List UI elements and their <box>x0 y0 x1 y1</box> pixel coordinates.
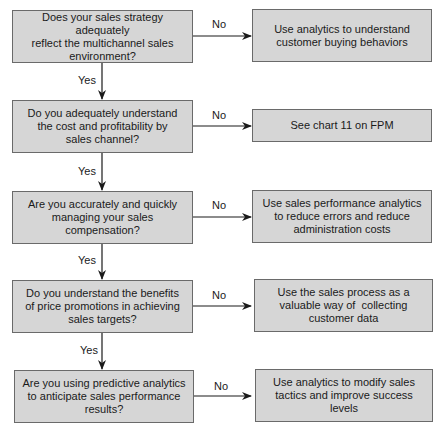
action-3-line-1: Use sales performance analytics <box>263 197 422 210</box>
action-4-line-3: customer data <box>277 312 409 325</box>
question-1-line-3: environment? <box>19 50 186 63</box>
question-5-line-1: Are you using predictive analytics <box>22 377 185 390</box>
question-4-line-2: of price promotions in achieving <box>25 300 180 313</box>
yes-label-4: Yes <box>80 344 98 356</box>
action-1-line-1: Use analytics to understand <box>274 23 410 36</box>
action-1-line-2: customer buying behaviors <box>274 36 410 49</box>
no-label-5: No <box>214 380 228 392</box>
action-5-line-2: tactics and improve success levels <box>262 389 426 415</box>
question-4-line-3: sales targets? <box>25 313 180 326</box>
no-label-4: No <box>212 289 226 301</box>
action-box-4: Use the sales process as a valuable way … <box>254 279 433 332</box>
question-4-line-1: Do you understand the benefits <box>25 287 180 300</box>
question-box-2: Do you adequately understand the cost an… <box>12 100 193 153</box>
yes-label-1: Yes <box>78 74 96 86</box>
action-4-line-2: valuable way of collecting <box>277 299 409 312</box>
question-2-line-1: Do you adequately understand <box>28 107 178 120</box>
question-box-3: Are you accurately and quickly managing … <box>12 191 193 244</box>
no-label-1: No <box>212 18 226 30</box>
question-1-line-2: reflect the multichannel sales <box>19 37 186 50</box>
question-2-line-2: the cost and profitability by <box>28 120 178 133</box>
action-5-line-1: Use analytics to modify sales <box>262 376 426 389</box>
action-2-line-1: See chart 11 on FPM <box>290 119 393 132</box>
action-box-1: Use analytics to understand customer buy… <box>252 9 432 62</box>
action-box-3: Use sales performance analytics to reduc… <box>252 190 432 243</box>
question-5-line-2: to anticipate sales performance <box>22 390 185 403</box>
action-3-line-2: to reduce errors and reduce <box>263 210 422 223</box>
question-box-1: Does your sales strategy adequately refl… <box>12 10 193 63</box>
action-box-2: See chart 11 on FPM <box>252 109 432 142</box>
action-4-line-1: Use the sales process as a <box>277 286 409 299</box>
question-2-line-3: sales channel? <box>28 133 178 146</box>
action-3-line-3: administration costs <box>263 223 422 236</box>
question-1-line-1: Does your sales strategy adequately <box>19 11 186 37</box>
question-3-line-3: compensation? <box>28 224 177 237</box>
question-3-line-2: managing your sales <box>28 211 177 224</box>
question-box-4: Do you understand the benefits of price … <box>12 280 193 333</box>
action-box-5: Use analytics to modify sales tactics an… <box>255 369 433 422</box>
question-5-line-3: results? <box>22 403 185 416</box>
question-box-5: Are you using predictive analytics to an… <box>14 370 194 423</box>
no-label-2: No <box>212 109 226 121</box>
yes-label-3: Yes <box>78 254 96 266</box>
no-label-3: No <box>212 199 226 211</box>
yes-label-2: Yes <box>78 165 96 177</box>
question-3-line-1: Are you accurately and quickly <box>28 198 177 211</box>
